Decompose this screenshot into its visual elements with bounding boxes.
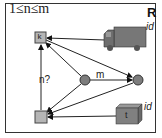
edge-label-m: m — [96, 69, 104, 80]
crate-id-label: id — [144, 101, 152, 112]
edge-crate-to-bottom — [48, 116, 116, 117]
crate-label: t — [125, 110, 128, 120]
circle-left-node — [80, 75, 90, 85]
k-node-label: k — [38, 32, 42, 41]
truck-icon — [104, 27, 146, 51]
edge-label-n: n? — [39, 74, 50, 85]
diagram-canvas — [0, 0, 162, 138]
edge-truck-to-k — [47, 38, 105, 40]
truck-id-label: id — [146, 21, 154, 32]
bottom-node — [35, 111, 47, 123]
box-icon — [116, 104, 142, 124]
circle-right-node — [133, 75, 143, 85]
